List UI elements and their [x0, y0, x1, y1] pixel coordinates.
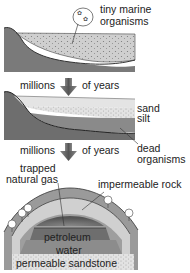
down-arrow-icon	[60, 143, 77, 161]
label-tiny-marine: tiny marine	[100, 4, 151, 15]
label-petroleum: petroleum	[44, 232, 91, 243]
svg-text:✿: ✿	[77, 10, 82, 16]
label-water: water	[56, 245, 82, 256]
svg-text:✿: ✿	[83, 16, 88, 22]
diagram-canvas: ✿ ✿	[0, 0, 190, 273]
label-of-years-2: of years	[82, 145, 119, 156]
label-silt: silt	[137, 113, 150, 124]
label-organisms: organisms	[100, 16, 148, 27]
stage2-cross-section	[4, 92, 138, 144]
down-arrow-icon	[60, 78, 77, 96]
label-impermeable-rock: impermeable rock	[98, 179, 181, 190]
label-permeable-sandstone: permeable sandstone	[16, 258, 117, 269]
label-natural-gas: natural gas	[6, 174, 58, 185]
label-of-years-1: of years	[82, 80, 119, 91]
label-millions-2: millions	[20, 145, 55, 156]
label-millions-1: millions	[20, 80, 55, 91]
label-dead-organisms: organisms	[137, 154, 185, 165]
